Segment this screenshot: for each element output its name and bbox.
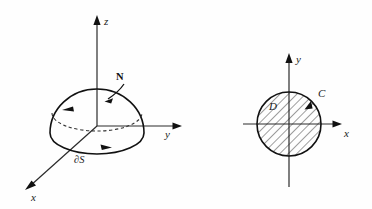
x-axis-label: x — [30, 191, 36, 203]
disk-x-axis-label: x — [343, 127, 349, 139]
right-panel-group: D C y x — [243, 53, 349, 187]
base-ellipse-front — [50, 133, 144, 154]
hidden-arc-direction-arrowhead — [62, 107, 74, 112]
normal-vector-label: N — [116, 71, 124, 82]
z-axis — [93, 15, 100, 126]
disk-y-axis-label: y — [295, 53, 301, 65]
z-axis-label: z — [103, 15, 109, 27]
x-axis — [25, 126, 97, 190]
disk-hatch-fill — [255, 90, 325, 160]
normal-vector-arrow — [105, 84, 125, 104]
disk-region-label: D — [268, 100, 277, 112]
left-panel-group: N ∂S z y x — [25, 15, 182, 203]
disk-x-axis-arrowhead — [333, 121, 343, 128]
math-figure-svg: N ∂S z y x — [0, 0, 372, 209]
figure-root: N ∂S z y x — [0, 0, 372, 209]
disk-boundary-label: C — [318, 87, 326, 99]
y-axis-arrowhead — [173, 123, 183, 130]
y-axis-label: y — [164, 128, 170, 140]
boundary-curve-label: ∂S — [74, 154, 85, 165]
z-axis-arrowhead — [93, 15, 100, 25]
disk-y-axis-arrowhead — [285, 53, 292, 63]
boundary-direction-arrowhead — [101, 145, 113, 150]
